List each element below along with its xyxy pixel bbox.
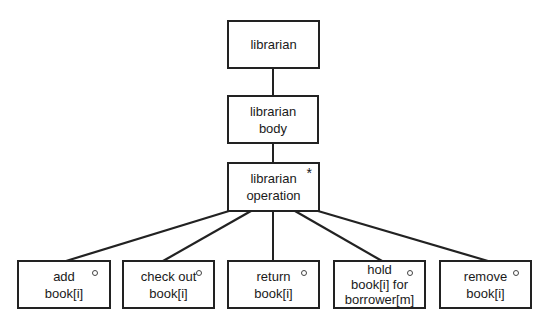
node-label: hold (367, 262, 392, 277)
node-librarian-operation: * librarian operation (227, 162, 320, 212)
node-add-book: add book[i] (17, 260, 111, 309)
node-return-book: return book[i] (227, 260, 320, 309)
node-librarian-body: librarian body (227, 95, 319, 144)
edge-operation-to-remove-book (318, 211, 488, 261)
node-label: add (53, 268, 75, 285)
edge-operation-to-add-book (66, 211, 229, 261)
node-remove-book: remove book[i] (439, 260, 532, 309)
edge-operation-to-hold-book (295, 211, 382, 261)
jackson-structure-diagram: librarian librarian body * librarian ope… (0, 0, 550, 325)
selection-circle-icon (407, 270, 413, 276)
node-librarian: librarian (227, 20, 320, 69)
node-check-out-book: check out book[i] (122, 260, 215, 309)
selection-circle-icon (513, 270, 519, 276)
node-label: book[i] (466, 285, 504, 302)
node-label: borrower[m] (345, 292, 414, 307)
node-label: body (259, 120, 287, 137)
selection-circle-icon (92, 270, 98, 276)
node-label: librarian (250, 36, 296, 53)
node-label: return (257, 268, 291, 285)
selection-circle-icon (196, 270, 202, 276)
node-label: book[i] (45, 285, 83, 302)
node-label: operation (246, 187, 300, 204)
node-label: librarian (250, 170, 296, 187)
node-label: book[i] (254, 285, 292, 302)
node-label: book[i] for (351, 277, 408, 292)
node-hold-book: hold book[i] for borrower[m] (333, 260, 426, 309)
node-label: check out (141, 268, 197, 285)
node-label: book[i] (149, 285, 187, 302)
iteration-star-icon: * (307, 168, 312, 179)
node-label: librarian (250, 103, 296, 120)
selection-circle-icon (301, 270, 307, 276)
node-label: remove (464, 268, 507, 285)
